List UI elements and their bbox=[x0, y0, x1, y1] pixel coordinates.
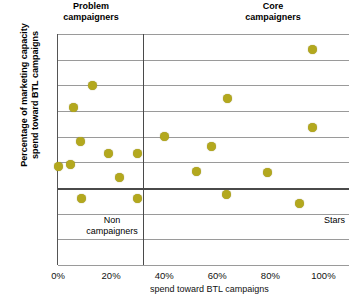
data-point bbox=[104, 149, 113, 158]
gridline-y-50 bbox=[58, 137, 349, 138]
data-point bbox=[160, 132, 169, 141]
data-point bbox=[263, 168, 272, 177]
quadrant-label-core-campaigners: Core campaigners bbox=[218, 1, 328, 23]
x-axis-title: spend toward BTL campaigns bbox=[150, 284, 349, 294]
x-tick-label: 40% bbox=[144, 270, 184, 281]
gridline-y-70 bbox=[58, 85, 349, 86]
data-point bbox=[88, 81, 97, 90]
quadrant-label-non-campaigners: Non campaigners bbox=[72, 215, 152, 237]
data-point bbox=[207, 142, 216, 151]
quadrant-label-stars: Stars bbox=[285, 215, 345, 226]
y-axis-title: Percentage of marketing capacity spend t… bbox=[19, 0, 41, 195]
data-point bbox=[133, 194, 142, 203]
scatter-chart: Problem campaigners Core campaigners Per… bbox=[0, 0, 349, 294]
data-point bbox=[115, 173, 124, 182]
data-point bbox=[76, 137, 85, 146]
x-tick-label: 0% bbox=[38, 270, 78, 281]
data-point bbox=[77, 194, 86, 203]
data-point bbox=[192, 167, 201, 176]
data-point bbox=[222, 190, 231, 199]
plot-area: 0%10%20%30%40%50%60%70%80%90% 0%20%40%60… bbox=[57, 34, 349, 265]
data-point bbox=[133, 149, 142, 158]
gridline-y-40 bbox=[58, 162, 349, 163]
gridline-y-80 bbox=[58, 60, 349, 61]
data-point bbox=[66, 160, 75, 169]
gridline-y-10 bbox=[58, 239, 349, 240]
x-tick-label: 60% bbox=[197, 270, 237, 281]
x-tick-label: 100% bbox=[303, 270, 343, 281]
x-tick-label: 20% bbox=[91, 270, 131, 281]
data-point bbox=[54, 162, 63, 171]
data-point bbox=[223, 94, 232, 103]
data-point bbox=[295, 199, 304, 208]
gridline-y-90 bbox=[58, 34, 349, 35]
x-tick-label: 80% bbox=[250, 270, 290, 281]
quadrant-label-problem-campaigners: Problem campaigners bbox=[44, 1, 138, 23]
gridline-y-0 bbox=[58, 265, 349, 266]
data-point bbox=[308, 45, 317, 54]
gridline-y-30 bbox=[58, 188, 349, 190]
gridline-y-60 bbox=[58, 111, 349, 112]
data-point bbox=[308, 123, 317, 132]
